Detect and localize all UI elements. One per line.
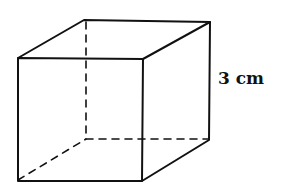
edge-length-label: 3 cm [218,68,264,88]
right-face [142,22,210,181]
hidden-left-bottom-edge [18,139,86,180]
cube-diagram: 3 cm [0,0,290,191]
top-face [18,20,210,59]
hidden-edges [18,22,209,180]
cube-drawing [0,0,290,191]
front-face [18,58,143,181]
